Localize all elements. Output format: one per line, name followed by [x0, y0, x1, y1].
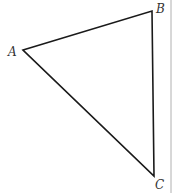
vertex-label-a: A — [7, 45, 17, 59]
triangle-diagram: A B C — [0, 0, 173, 193]
vertex-label-c: C — [155, 178, 164, 192]
vertex-label-b: B — [155, 2, 165, 16]
triangle-abc — [23, 11, 154, 176]
